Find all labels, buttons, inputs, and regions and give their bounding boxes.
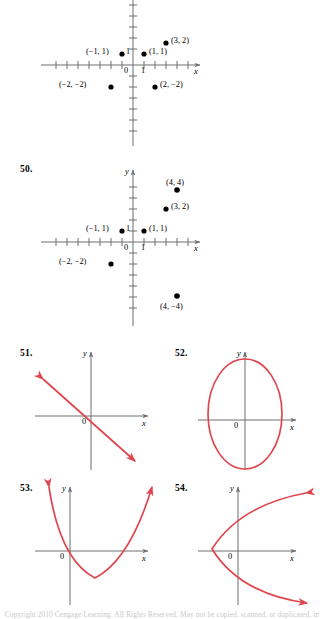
page-footer-notice: Copyright 2010 Cengage Learning. All Rig… xyxy=(0,610,324,619)
figure-52 xyxy=(198,352,296,470)
figure-51 xyxy=(35,352,148,470)
point-label--2--2: (−2, −2) xyxy=(59,80,86,89)
y-axis-label-51: y xyxy=(83,348,87,358)
point-label-4-4: (4, 4) xyxy=(166,178,184,187)
point-label-3-2: (3, 2) xyxy=(171,36,189,45)
x-axis-label-49: x xyxy=(194,66,198,76)
point-label-2--2: (2, −2) xyxy=(160,80,183,89)
exercise-number-53: 53. xyxy=(20,483,32,493)
sideways-parabola-curve xyxy=(212,493,307,603)
point-4-4 xyxy=(174,187,180,193)
x-tick-label-50: 1 xyxy=(141,243,145,252)
point-label--1-1-50: (−1, 1) xyxy=(86,224,109,233)
x-axis-label-52: x xyxy=(290,422,294,432)
origin-label-52: 0 xyxy=(234,421,238,430)
origin-label-54: 0 xyxy=(228,552,232,561)
parabola-curve xyxy=(49,487,152,578)
x-axis-label-53: x xyxy=(142,553,146,563)
y-axis-label-52: y xyxy=(237,348,241,358)
y-axis-label-50: y xyxy=(125,166,129,176)
x-axis-label-50: x xyxy=(194,243,198,253)
exercise-number-51: 51. xyxy=(20,348,32,358)
y-tick-label-49: 1 xyxy=(126,47,130,56)
exercise-number-52: 52. xyxy=(175,348,187,358)
origin-label-53: 0 xyxy=(60,552,64,561)
point-1-1 xyxy=(141,228,146,233)
point-label--1-1: (−1, 1) xyxy=(86,47,109,56)
exercise-number-50: 50. xyxy=(20,164,32,174)
point--2--2 xyxy=(108,84,113,89)
point-2--2 xyxy=(152,84,157,89)
point-3-2 xyxy=(163,40,168,45)
exercise-number-54: 54. xyxy=(175,483,187,493)
point--1-1 xyxy=(119,51,124,56)
textbook-page: (−1, 1) 1 (1, 1) (3, 2) (−2, −2) (2, −2)… xyxy=(0,0,324,619)
y-tick-label-50: 1 xyxy=(126,224,130,233)
point-label-1-1: (1, 1) xyxy=(149,47,167,56)
point-label-3-2-50: (3, 2) xyxy=(171,202,189,211)
point--1-1 xyxy=(119,228,124,233)
point--2--2 xyxy=(108,261,113,266)
y-axis-label-53: y xyxy=(62,483,66,493)
line-curve xyxy=(43,379,135,461)
figure-53 xyxy=(35,487,152,605)
point-4--4 xyxy=(174,293,180,299)
y-axis-label-54: y xyxy=(230,483,234,493)
origin-label-51: 0 xyxy=(82,417,86,426)
point-label-4--4: (4, −4) xyxy=(160,302,183,311)
point-label-1-1-50: (1, 1) xyxy=(149,224,167,233)
figure-54 xyxy=(198,487,307,605)
x-axis-label-51: x xyxy=(142,418,146,428)
origin-label-49: 0 xyxy=(124,66,128,75)
point-label--2--2-50: (−2, −2) xyxy=(59,257,86,266)
figure-49-axes xyxy=(41,0,200,146)
x-axis-label-54: x xyxy=(290,553,294,563)
origin-label-50: 0 xyxy=(124,243,128,252)
point-1-1 xyxy=(141,51,146,56)
x-tick-label-49: 1 xyxy=(141,66,145,75)
point-3-2 xyxy=(163,206,168,211)
